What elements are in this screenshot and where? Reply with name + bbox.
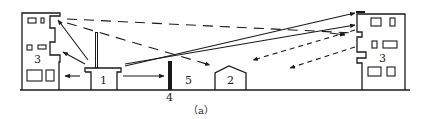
barrier-label: 4 (166, 91, 173, 104)
right-building-label: 3 (379, 52, 386, 65)
right-tall-building: 3 (356, 12, 405, 90)
open-ground-label: 5 (185, 74, 192, 87)
source-building-label: 1 (100, 74, 107, 87)
figure-caption: （a） (188, 105, 214, 116)
return-paths (253, 30, 355, 68)
direct-paths (58, 13, 355, 76)
noise-propagation-diagram: 3 3 1 4 5 2 (0, 0, 428, 119)
left-building-label: 3 (34, 53, 41, 66)
low-house: 2 (215, 66, 246, 90)
low-house-label: 2 (227, 74, 234, 87)
reflected-paths (67, 19, 355, 65)
barrier-wall: 4 (166, 61, 173, 104)
source-building: 1 (85, 32, 121, 90)
left-tall-building: 3 (22, 13, 60, 90)
